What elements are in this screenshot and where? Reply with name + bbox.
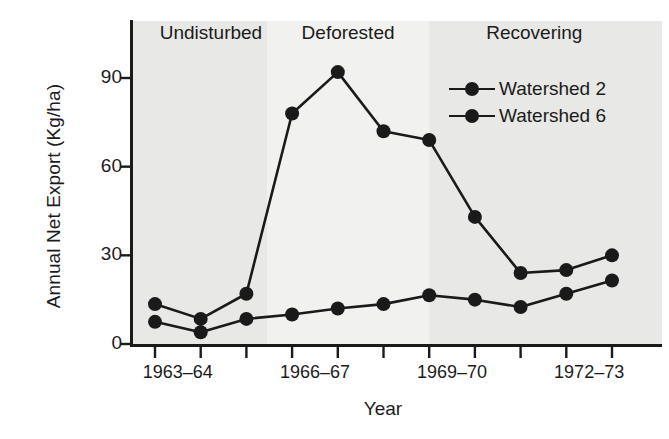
legend-item-watershed-2[interactable]: Watershed 2 (449, 75, 606, 102)
x-tick-label: 1966–67 (255, 362, 375, 383)
phase-label: Recovering (434, 22, 634, 44)
legend-marker-icon (449, 108, 495, 124)
legend-label: Watershed 6 (499, 105, 606, 127)
legend-label: Watershed 2 (499, 78, 606, 100)
x-tick-label: 1969–70 (392, 362, 512, 383)
chart-legend: Watershed 2 Watershed 6 (449, 75, 606, 129)
x-tick-label: 1963–64 (118, 362, 238, 383)
chart-figure: Annual Net Export (Kg/ha) Year 0306090 1… (0, 0, 669, 439)
legend-marker-icon (449, 81, 495, 97)
x-tick-labels: 1963–641966–671969–701972–73UndisturbedD… (0, 0, 669, 439)
x-tick-label: 1972–73 (529, 362, 649, 383)
phase-label: Deforested (248, 22, 448, 44)
legend-item-watershed-6[interactable]: Watershed 6 (449, 102, 606, 129)
